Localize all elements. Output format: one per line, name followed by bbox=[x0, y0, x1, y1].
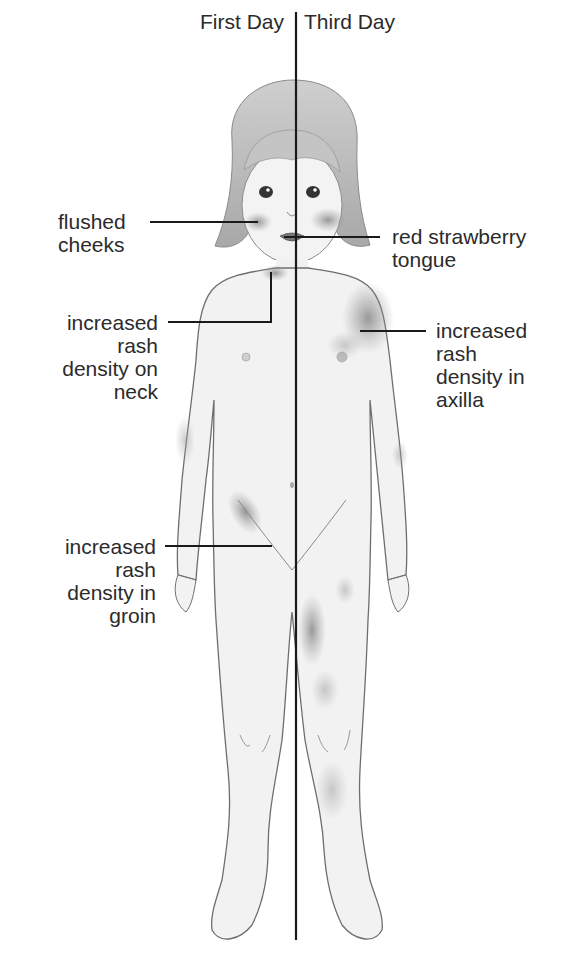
label-axilla-rash: increased rash density in axilla bbox=[436, 319, 527, 411]
face bbox=[242, 147, 342, 263]
child-figure-illustration bbox=[0, 0, 587, 973]
torso bbox=[177, 268, 406, 939]
flushed-cheek-right bbox=[310, 208, 346, 232]
header-first-day: First Day bbox=[180, 10, 284, 34]
label-red-strawberry-tongue: red strawberry tongue bbox=[392, 225, 526, 271]
label-groin-rash: increased rash density in groin bbox=[26, 535, 156, 627]
label-neck-rash: increased rash density on neck bbox=[30, 311, 158, 403]
header-third-day: Third Day bbox=[304, 10, 424, 34]
right-eye bbox=[306, 186, 320, 198]
left-eye bbox=[259, 186, 273, 198]
left-hand bbox=[175, 575, 196, 612]
rash-neck bbox=[261, 265, 289, 281]
scarlet-fever-diagram: First Day Third Day flushed cheeks red s… bbox=[0, 0, 587, 973]
right-hand bbox=[388, 575, 409, 612]
label-flushed-cheeks: flushed cheeks bbox=[58, 210, 126, 256]
